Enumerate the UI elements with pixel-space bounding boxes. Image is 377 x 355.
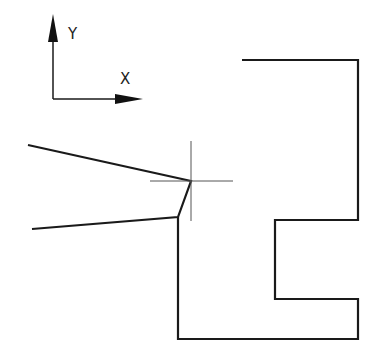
x-axis-label: X <box>120 70 130 88</box>
ucs-axes-icon: Y X <box>48 14 143 104</box>
y-axis-arrowhead <box>48 14 58 42</box>
x-axis-arrowhead <box>115 94 143 104</box>
crosshair-cursor-icon <box>150 141 233 221</box>
drawing-canvas: Y X <box>0 0 377 355</box>
main-outline-polyline[interactable] <box>178 60 358 339</box>
y-axis-label: Y <box>67 25 78 43</box>
wedge-polyline[interactable] <box>28 145 191 229</box>
